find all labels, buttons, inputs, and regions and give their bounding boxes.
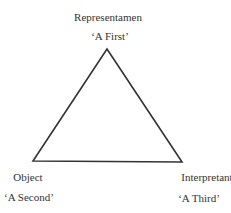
interpretant-label: Interpretant xyxy=(181,171,231,183)
object-subtitle: ‘A Second’ xyxy=(4,191,54,203)
object-label: Object xyxy=(13,171,42,183)
representamen-subtitle: ‘A First’ xyxy=(91,30,129,42)
interpretant-subtitle: ‘A Third’ xyxy=(178,192,220,204)
representamen-label: Representamen xyxy=(74,11,142,23)
semiotic-triangle-diagram: Representamen ‘A First’ Object ‘A Second… xyxy=(0,0,231,213)
